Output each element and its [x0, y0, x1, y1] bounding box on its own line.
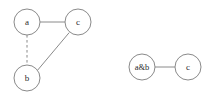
graph-diagram: a c b a&b c	[0, 0, 217, 100]
graph-left: a c b	[14, 9, 91, 91]
diagram-canvas: a c b a&b c	[0, 0, 217, 100]
node-c[interactable]: c	[65, 9, 91, 35]
node-c-label: c	[76, 17, 80, 27]
graph-right: a&b c	[129, 54, 201, 80]
node-c-right-label: c	[186, 62, 190, 72]
node-a-label: a	[25, 17, 29, 27]
node-ab[interactable]: a&b	[129, 54, 155, 80]
node-c-right[interactable]: c	[175, 54, 201, 80]
edge-b-c	[38, 33, 70, 71]
node-b[interactable]: b	[14, 65, 40, 91]
node-ab-label: a&b	[135, 62, 150, 72]
node-a[interactable]: a	[14, 9, 40, 35]
node-b-label: b	[25, 73, 30, 83]
